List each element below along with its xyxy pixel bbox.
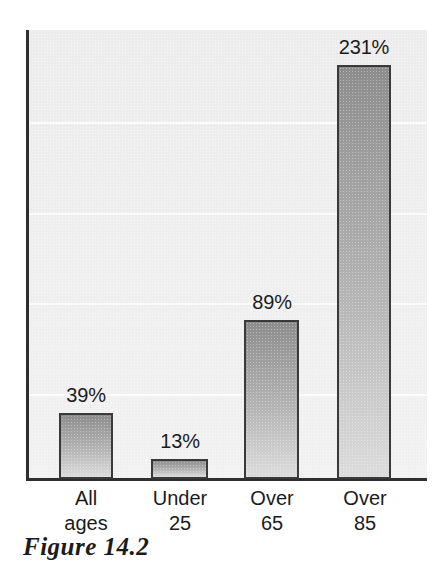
x-label-over-65: Over 65 [232,486,312,536]
x-label-under-25-line1: Under [140,486,220,511]
figure-caption: Figure 14.2 [23,533,149,561]
y-axis-line [26,30,29,481]
x-label-over-85-line2: 85 [325,511,405,536]
value-label-over-85: 231% [320,36,408,59]
value-label-over-65: 89% [232,291,312,314]
x-label-over-65-line2: 65 [232,511,312,536]
x-label-all-ages: All ages [46,486,126,536]
x-label-all-ages-line1: All [46,486,126,511]
bar-all-ages[interactable] [59,413,113,479]
x-label-over-85: Over 85 [325,486,405,536]
x-label-over-85-line1: Over [325,486,405,511]
figure-container: 39% 13% 89% 231% All ages Under 25 Over … [0,0,445,567]
value-label-under-25: 13% [140,430,220,453]
value-label-all-ages: 39% [46,384,126,407]
bar-over-65[interactable] [244,320,299,479]
bar-over-85[interactable] [337,65,391,479]
x-label-under-25-line2: 25 [140,511,220,536]
bar-under-25[interactable] [151,459,208,479]
x-label-over-65-line1: Over [232,486,312,511]
x-label-under-25: Under 25 [140,486,220,536]
